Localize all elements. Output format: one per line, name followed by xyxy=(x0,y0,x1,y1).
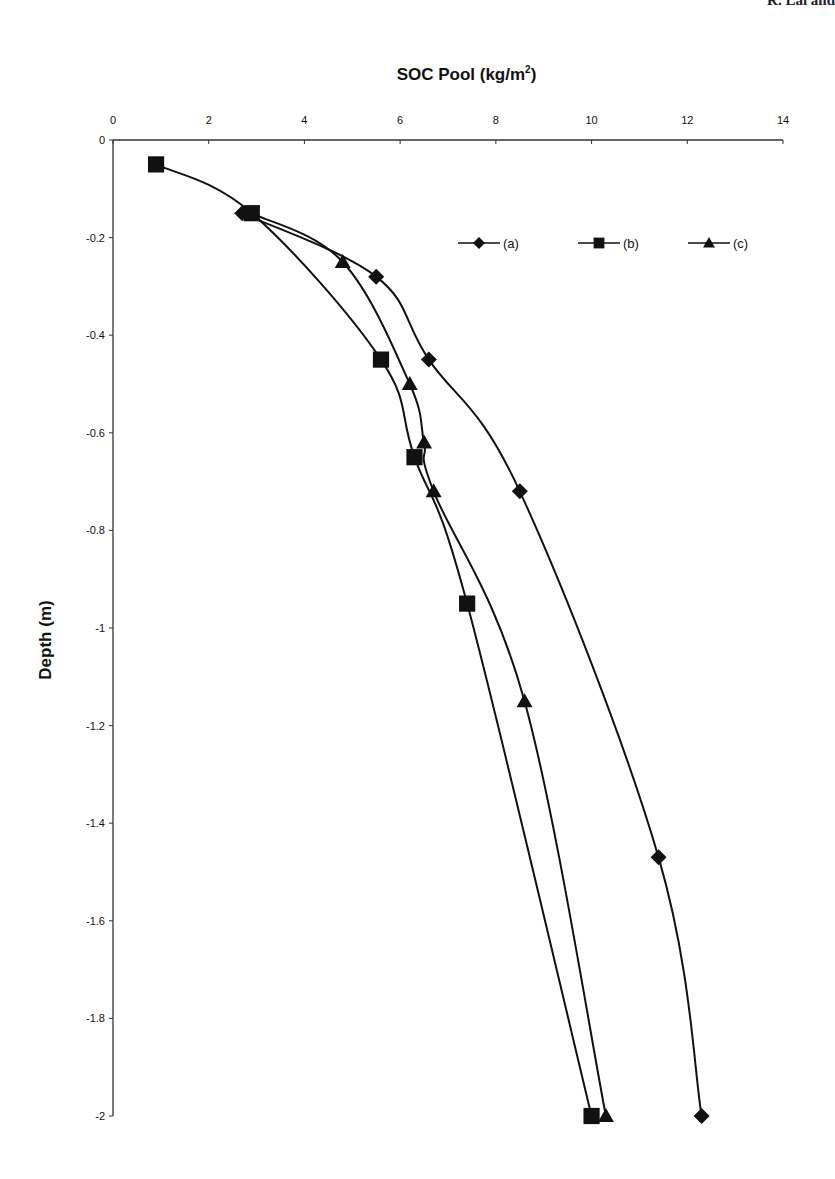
square-marker xyxy=(583,1108,599,1124)
y-tick-label: -0.6 xyxy=(86,427,105,439)
y-tick-label: 0 xyxy=(99,134,105,146)
y-tick-label: -0.2 xyxy=(86,232,105,244)
y-tick-label: -1 xyxy=(95,622,105,634)
x-tick-label: 6 xyxy=(397,114,403,126)
triangle-marker xyxy=(416,435,432,449)
y-tick-label: -1.4 xyxy=(86,817,105,829)
series-line-diamond xyxy=(242,213,701,1116)
triangle-marker xyxy=(517,693,533,707)
square-marker xyxy=(148,156,164,172)
x-tick-label: 0 xyxy=(110,114,116,126)
legend-square-icon xyxy=(594,238,605,249)
y-tick-label: -0.8 xyxy=(86,524,105,536)
triangle-marker xyxy=(402,376,418,390)
triangle-marker xyxy=(598,1108,614,1122)
legend-diamond-icon xyxy=(473,237,485,249)
x-tick-label: 14 xyxy=(777,114,789,126)
y-tick-label: -1.8 xyxy=(86,1012,105,1024)
legend-label: (c) xyxy=(733,236,748,251)
square-marker xyxy=(373,352,389,368)
x-tick-label: 4 xyxy=(301,114,307,126)
x-tick-label: 10 xyxy=(585,114,597,126)
diamond-marker xyxy=(421,352,437,368)
y-tick-label: -1.2 xyxy=(86,720,105,732)
x-tick-label: 2 xyxy=(206,114,212,126)
x-tick-label: 12 xyxy=(681,114,693,126)
x-tick-label: 8 xyxy=(493,114,499,126)
diamond-marker xyxy=(694,1108,710,1124)
series-line-triangle xyxy=(252,213,606,1116)
y-tick-label: -2 xyxy=(95,1110,105,1122)
square-marker xyxy=(459,596,475,612)
y-tick-label: -1.6 xyxy=(86,915,105,927)
diamond-marker xyxy=(651,849,667,865)
square-marker xyxy=(406,449,422,465)
y-tick-label: -0.4 xyxy=(86,329,105,341)
diamond-marker xyxy=(512,483,528,499)
legend-label: (b) xyxy=(623,236,639,251)
legend-label: (a) xyxy=(503,236,519,251)
